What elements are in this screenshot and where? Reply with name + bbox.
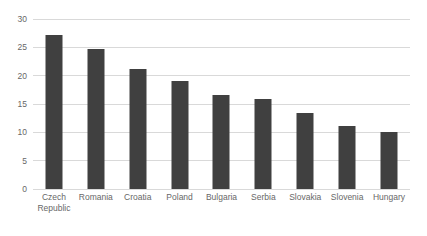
bar[interactable]	[171, 81, 188, 189]
x-axis-label: Croatia	[117, 192, 159, 203]
bar[interactable]	[87, 49, 104, 189]
bar-slot	[201, 19, 243, 189]
x-axis-label: Hungary	[368, 192, 410, 203]
x-axis-label-line: Serbia	[242, 192, 284, 203]
x-axis-label: CzechRepublic	[33, 192, 75, 214]
bar-slot	[75, 19, 117, 189]
bar-slot	[117, 19, 159, 189]
x-axis-label: Bulgaria	[201, 192, 243, 203]
bar-slot	[242, 19, 284, 189]
x-axis-label: Slovakia	[284, 192, 326, 203]
y-tick-label: 30	[18, 15, 27, 24]
x-axis-label-line: Republic	[33, 203, 75, 214]
y-tick-label: 0	[22, 185, 27, 194]
bar-slot	[284, 19, 326, 189]
plot-area: 051015202530	[33, 19, 410, 189]
x-axis-label-line: Czech	[33, 192, 75, 203]
y-tick-label: 25	[18, 43, 27, 52]
x-axis-label-line: Romania	[75, 192, 117, 203]
x-axis-label-line: Slovakia	[284, 192, 326, 203]
bars	[33, 19, 410, 189]
bar-slot	[159, 19, 201, 189]
bar[interactable]	[297, 113, 314, 189]
bar-chart: 051015202530 CzechRepublicRomaniaCroatia…	[0, 0, 427, 236]
y-tick-label: 10	[18, 128, 27, 137]
bar[interactable]	[129, 69, 146, 189]
x-axis-label-line: Slovenia	[326, 192, 368, 203]
x-axis-labels: CzechRepublicRomaniaCroatiaPolandBulgari…	[33, 192, 410, 234]
bar[interactable]	[339, 126, 356, 189]
bar-slot	[326, 19, 368, 189]
bar[interactable]	[213, 95, 230, 189]
bar[interactable]	[255, 99, 272, 189]
bar[interactable]	[381, 132, 398, 189]
x-axis-label-line: Croatia	[117, 192, 159, 203]
x-axis-label: Serbia	[242, 192, 284, 203]
y-tick-label: 20	[18, 71, 27, 80]
y-tick-label: 5	[22, 156, 27, 165]
y-tick-label: 15	[18, 100, 27, 109]
x-axis-label-line: Bulgaria	[201, 192, 243, 203]
bar[interactable]	[45, 35, 62, 189]
x-axis-label: Slovenia	[326, 192, 368, 203]
x-axis-label-line: Poland	[159, 192, 201, 203]
x-axis-label: Poland	[159, 192, 201, 203]
x-axis-label: Romania	[75, 192, 117, 203]
bar-slot	[368, 19, 410, 189]
bar-slot	[33, 19, 75, 189]
x-axis-label-line: Hungary	[368, 192, 410, 203]
